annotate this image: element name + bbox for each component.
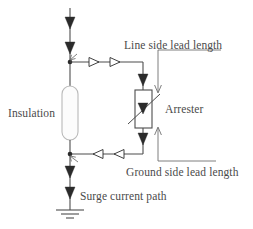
node-ground-side bbox=[68, 152, 73, 157]
surge-arrester-diagram: Line side lead length Insulation Arreste… bbox=[0, 0, 253, 229]
line-side-lead-wire bbox=[70, 62, 143, 90]
flow-arrow-line-lead-down bbox=[138, 74, 148, 86]
flow-arrow-ground-lead-1 bbox=[114, 150, 124, 159]
ground-side-lead-pointer bbox=[155, 127, 216, 161]
diagram-canvas: Line side lead length Insulation Arreste… bbox=[0, 0, 253, 229]
flow-arrow-ground-lead-2 bbox=[93, 150, 103, 159]
label-insulation: Insulation bbox=[8, 107, 55, 119]
label-surge-current-path: Surge current path bbox=[80, 190, 167, 203]
node-arrow-ground-side bbox=[70, 156, 78, 162]
line-side-lead-pointer bbox=[155, 50, 221, 93]
flow-arrow-main-top-2 bbox=[65, 42, 75, 54]
label-line-side-lead-length: Line side lead length bbox=[124, 39, 222, 52]
ground-symbol bbox=[56, 210, 84, 218]
node-arrow-line-side bbox=[70, 54, 77, 60]
label-ground-side-lead-length: Ground side lead length bbox=[126, 166, 239, 179]
flow-arrow-main-bottom-2 bbox=[65, 187, 75, 199]
insulation-element bbox=[62, 86, 78, 140]
flow-arrow-arrester-lower bbox=[138, 133, 148, 145]
label-arrester: Arrester bbox=[165, 103, 204, 115]
flow-arrow-line-lead-2 bbox=[110, 58, 120, 67]
flow-arrow-main-bottom-1 bbox=[65, 166, 75, 178]
flow-arrow-line-lead-1 bbox=[89, 58, 99, 67]
flow-arrow-main-top-1 bbox=[65, 17, 75, 29]
